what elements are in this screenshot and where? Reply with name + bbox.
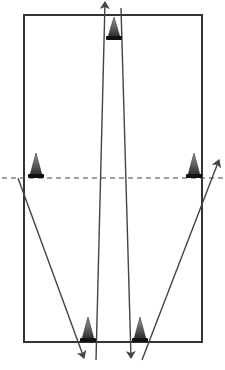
diagram-canvas [0, 0, 225, 370]
path-layer [18, 2, 219, 360]
movement-arrow-down-run-center-right [121, 8, 131, 358]
cone-icon-top-center [106, 17, 122, 40]
movement-arrow-diagonal-right [142, 160, 219, 360]
cone-icon-mid-left [28, 153, 44, 178]
cone-icon-bottom-left [80, 317, 96, 342]
cone-icon-mid-right [186, 153, 202, 178]
movement-arrow-up-run-center-left [96, 2, 105, 360]
drill-diagram [0, 0, 225, 370]
cone-icon-bottom-right [132, 317, 148, 342]
cone-layer [28, 17, 202, 342]
movement-arrow-diagonal-left [18, 178, 84, 358]
